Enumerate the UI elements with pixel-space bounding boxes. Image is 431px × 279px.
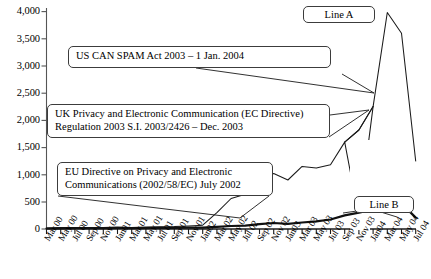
leader-eu-directive — [58, 196, 269, 218]
series-label-line-a: Line A — [303, 6, 375, 23]
annotation-line: UK Privacy and Electronic Communication … — [55, 108, 322, 121]
y-tick-label: 0 — [0, 224, 40, 235]
y-tick-label: 4,000 — [0, 6, 40, 17]
annotation-uk-privacy: UK Privacy and Electronic Communication … — [47, 104, 330, 138]
annotation-line: Regulation 2003 S.I. 2003/2426 – Dec. 20… — [55, 121, 322, 134]
y-tick-label: 2,500 — [0, 88, 40, 99]
annotation-line: Communications (2002/58/EC) July 2002 — [65, 179, 265, 192]
y-tick-label: 1,000 — [0, 170, 40, 181]
y-tick-label: 1,500 — [0, 142, 40, 153]
y-tick-label: 3,000 — [0, 61, 40, 72]
y-tick-label: 2,000 — [0, 115, 40, 126]
annotation-us-can-spam: US CAN SPAM Act 2003 – 1 Jan. 2004 — [68, 46, 331, 68]
y-axis-ticks — [42, 12, 47, 229]
series-label-line-b: Line B — [354, 196, 414, 213]
leader-us-can-spam — [196, 68, 374, 93]
y-tick-label: 3,500 — [0, 34, 40, 45]
annotation-eu-directive: EU Directive on Privacy and Electronic C… — [57, 162, 273, 196]
annotation-line: US CAN SPAM Act 2003 – 1 Jan. 2004 — [76, 50, 323, 63]
y-tick-label: 500 — [0, 197, 40, 208]
annotation-line: EU Directive on Privacy and Electronic — [65, 166, 265, 179]
